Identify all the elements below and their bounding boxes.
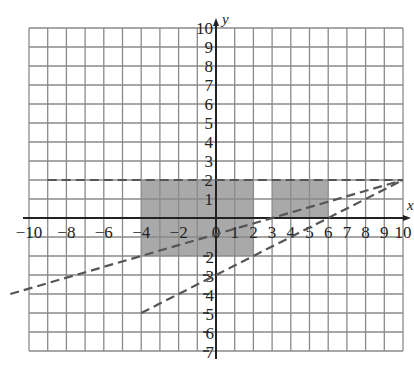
y-tick-label: 3 bbox=[206, 267, 215, 286]
x-tick-label: 2 bbox=[249, 223, 258, 242]
x-tick-label: 8 bbox=[361, 223, 370, 242]
x-tick-label: 9 bbox=[380, 223, 389, 242]
x-tick-label: −6 bbox=[95, 223, 113, 242]
y-tick-label: 10 bbox=[196, 19, 213, 38]
x-tick-label: 1 bbox=[230, 223, 239, 242]
y-tick-label: 8 bbox=[205, 57, 214, 76]
y-tick-label: 9 bbox=[205, 38, 214, 57]
y-tick-label: 1 bbox=[205, 190, 214, 209]
y-tick-label: 7 bbox=[205, 76, 214, 95]
x-tick-label: 10 bbox=[395, 223, 412, 242]
y-tick-label: 4 bbox=[205, 133, 214, 152]
x-tick-label: 4 bbox=[287, 223, 296, 242]
y-tick-label: 3 bbox=[205, 152, 214, 171]
y-tick-label: 6 bbox=[205, 95, 214, 114]
x-axis-arrow-icon bbox=[403, 215, 411, 221]
x-tick-label: 3 bbox=[268, 223, 277, 242]
x-tick-label: 5 bbox=[305, 223, 314, 242]
x-tick-label: 7 bbox=[343, 223, 352, 242]
y-tick-label: 2 bbox=[206, 248, 215, 267]
y-tick-label: 5 bbox=[205, 114, 214, 133]
y-tick-label: 5 bbox=[206, 305, 215, 324]
x-tick-label: 6 bbox=[324, 223, 333, 242]
x-tick-label: −4 bbox=[132, 223, 151, 242]
x-tick-label: −2 bbox=[170, 223, 188, 242]
grid-plot: xy−10−8−6−4−2012345678910109876543212345… bbox=[0, 0, 414, 367]
y-tick-label: 6 bbox=[206, 324, 215, 343]
y-tick-label: 7 bbox=[206, 343, 215, 362]
y-axis-arrow-icon bbox=[213, 18, 219, 26]
coordinate-grid-diagram: xy−10−8−6−4−2012345678910109876543212345… bbox=[0, 0, 414, 367]
x-axis-label: x bbox=[406, 197, 414, 213]
y-axis-label: y bbox=[220, 11, 229, 27]
y-tick-label: 4 bbox=[206, 286, 215, 305]
x-tick-label: −8 bbox=[57, 223, 75, 242]
x-tick-label: −10 bbox=[16, 223, 43, 242]
